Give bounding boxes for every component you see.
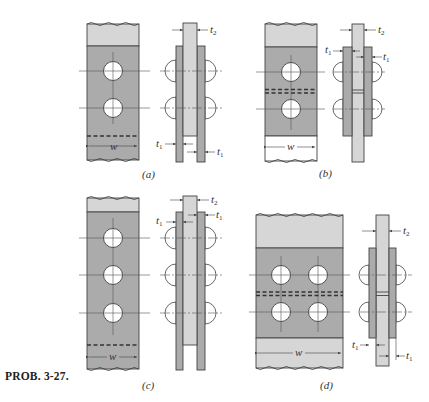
- t1-label: t1: [406, 349, 413, 363]
- t1-label: t1: [352, 338, 359, 352]
- panel-d-side-view: t2 t1 t1: [352, 215, 413, 366]
- t1-label: t1: [383, 50, 390, 64]
- panel-a-side-view: t2 t1 t1: [156, 23, 224, 162]
- t1-label: t1: [156, 137, 163, 151]
- panel-c-label: (c): [142, 379, 155, 392]
- t1-label: t1: [156, 214, 163, 228]
- panel-c: w t2 t1 t1 (c): [79, 193, 223, 392]
- panel-d-front-view: w: [249, 214, 350, 370]
- riveted-joints-diagram: .light { fill: #d6d6d6; stroke: #444; st…: [0, 0, 429, 402]
- t1-label: t1: [216, 208, 223, 222]
- panel-d-label: (d): [320, 379, 333, 392]
- panel-a-front-view: w: [79, 23, 150, 162]
- width-label: w: [287, 140, 295, 152]
- width-label: w: [109, 350, 117, 362]
- t2-label: t2: [210, 23, 217, 37]
- panel-a: w t2 t1 t1 (a): [79, 23, 224, 182]
- panel-b-side-view: t2 t1 t1: [325, 23, 390, 162]
- panel-c-front-view: w: [79, 197, 150, 371]
- figure-prob-3-27: .light { fill: #d6d6d6; stroke: #444; st…: [0, 0, 429, 402]
- width-label: w: [110, 140, 118, 152]
- t1-label: t1: [325, 43, 332, 57]
- t2-label: t2: [403, 224, 410, 238]
- figure-caption: PROB. 3-27.: [5, 370, 69, 382]
- panel-b: w t2 t1 t1 (b): [256, 23, 390, 181]
- t2-label: t2: [211, 193, 218, 207]
- width-label: w: [295, 346, 303, 358]
- t2-label: t2: [378, 23, 385, 37]
- panel-d: w t2 t1 t1 (d): [249, 214, 413, 393]
- t1-label: t1: [217, 145, 224, 159]
- panel-a-label: (a): [142, 168, 155, 181]
- panel-b-label: (b): [319, 167, 332, 180]
- panel-c-side-view: t2 t1 t1: [156, 193, 223, 370]
- panel-b-front-view: w: [256, 23, 325, 163]
